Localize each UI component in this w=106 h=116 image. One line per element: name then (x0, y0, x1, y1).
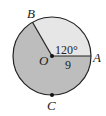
angle-label: 120° (55, 43, 78, 57)
center-point (50, 54, 54, 58)
label-O: O (39, 53, 49, 68)
label-C: C (47, 98, 56, 113)
point-C (50, 93, 54, 97)
label-A: A (92, 50, 101, 65)
radius-label: 9 (65, 58, 71, 72)
label-B: B (27, 6, 35, 21)
circle-diagram: B A O C 120° 9 (0, 0, 106, 116)
